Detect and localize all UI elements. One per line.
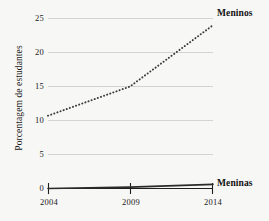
gridlines [48,19,213,155]
y-tick-label-0: 0 [22,183,44,193]
x-tick-label-2009: 2009 [111,197,151,207]
series-label-meninas: Meninas [217,178,253,188]
x-tick-label-2014: 2014 [193,197,233,207]
y-tick-label-5: 5 [22,149,44,159]
x-tick-label-2004: 2004 [29,197,69,207]
y-tick-label-15: 15 [22,81,44,91]
line-chart: Porcentagem de estudantes 25 20 15 10 5 … [0,0,269,221]
series-label-meninos: Meninos [217,8,253,18]
y-tick-label-20: 20 [22,47,44,57]
y-tick-label-25: 25 [22,13,44,23]
y-tick-label-10: 10 [22,115,44,125]
series-line-meninos [48,25,213,116]
